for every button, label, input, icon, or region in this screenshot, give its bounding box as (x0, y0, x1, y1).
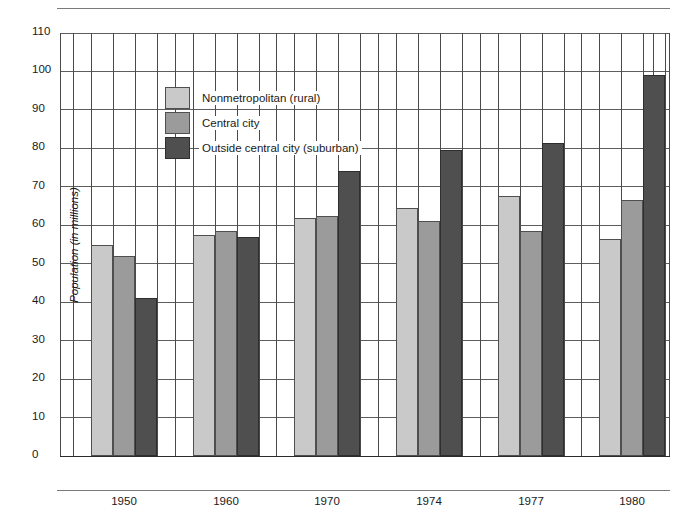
bar-1960-series-0 (193, 235, 215, 456)
legend-label: Central city (199, 116, 263, 130)
y-axis-label: Population (in millions) (68, 187, 80, 303)
gridline-y-50 (60, 263, 670, 264)
y-tick-label-40: 40 (32, 294, 54, 306)
gridline-x (462, 33, 463, 456)
y-tick-label-110: 110 (32, 25, 54, 37)
x-tick-label-1974: 1974 (416, 495, 442, 507)
bar-1960-series-1 (215, 231, 237, 456)
legend-label: Nonmetropolitan (rural) (199, 91, 323, 105)
legend-label: Outside central city (suburban) (199, 141, 362, 155)
gridline-y-80 (60, 148, 670, 149)
y-tick-label-20: 20 (32, 371, 54, 383)
gridline-y-110 (60, 33, 670, 34)
gridline-y-70 (60, 186, 670, 187)
bar-1960-series-2 (237, 237, 259, 456)
x-tick-label-1980: 1980 (619, 495, 645, 507)
bar-1950-series-0 (91, 245, 113, 457)
bar-1974-series-2 (440, 150, 462, 456)
y-tick-label-100: 100 (32, 63, 54, 75)
gridline-y-60 (60, 225, 670, 226)
legend-swatch-nonmetropolitan (165, 87, 190, 109)
y-tick-label-0: 0 (32, 448, 54, 460)
gridline-x (157, 33, 158, 456)
gridline-x (60, 33, 61, 456)
bar-1970-series-1 (316, 216, 338, 456)
legend-item: Outside central city (suburban) (165, 135, 362, 160)
y-tick-label-80: 80 (32, 140, 54, 152)
chart-legend: Nonmetropolitan (rural) Central city Out… (165, 85, 362, 160)
bar-1970-series-2 (338, 171, 360, 456)
legend-item: Central city (165, 110, 362, 135)
y-tick-label-60: 60 (32, 217, 54, 229)
y-tick-label-10: 10 (32, 410, 54, 422)
legend-item: Nonmetropolitan (rural) (165, 85, 362, 110)
bar-1974-series-0 (396, 208, 418, 456)
y-tick-label-50: 50 (32, 256, 54, 268)
bar-1974-series-1 (418, 221, 440, 456)
top-rule (57, 8, 670, 9)
y-tick-label-30: 30 (32, 333, 54, 345)
chart-plot-area: Population (in millions) 010203040506070… (60, 33, 670, 456)
legend-swatch-suburban (165, 137, 190, 159)
bar-1980-series-1 (621, 200, 643, 456)
gridline-x (564, 33, 565, 456)
x-tick-label-1950: 1950 (111, 495, 137, 507)
gridline-x (480, 33, 481, 456)
bar-1970-series-0 (294, 218, 316, 456)
bar-1950-series-1 (113, 256, 135, 456)
gridline-y-100 (60, 71, 670, 72)
gridline-x (669, 33, 670, 456)
x-tick-label-1970: 1970 (314, 495, 340, 507)
gridline-x (378, 33, 379, 456)
x-tick-label-1960: 1960 (213, 495, 239, 507)
bottom-rule (57, 490, 670, 491)
legend-swatch-central-city (165, 112, 190, 134)
bar-1977-series-1 (520, 231, 542, 456)
gridline-y-90 (60, 109, 670, 110)
y-tick-label-90: 90 (32, 102, 54, 114)
gridline-x (665, 33, 666, 456)
bar-1977-series-0 (498, 196, 520, 456)
x-tick-label-1977: 1977 (518, 495, 544, 507)
bar-1977-series-2 (542, 143, 564, 456)
gridline-x (581, 33, 582, 456)
bar-1950-series-2 (135, 298, 157, 456)
bar-1980-series-0 (599, 239, 621, 456)
bar-1980-series-2 (643, 75, 665, 456)
y-tick-label-70: 70 (32, 179, 54, 191)
